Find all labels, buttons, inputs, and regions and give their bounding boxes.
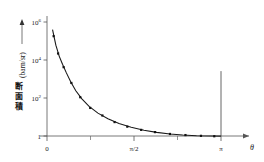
data-point-marker <box>53 35 55 37</box>
cross-section-chart: 1061041021 0π/2π θ (barn/sr) 断 面 積 <box>0 0 264 162</box>
data-point-marker <box>140 129 142 131</box>
data-point-marker <box>113 121 115 123</box>
y-tick-label: 1 <box>38 133 42 141</box>
data-point-marker <box>70 82 72 84</box>
y-axis-cjk-char-1: 断 <box>15 81 23 91</box>
x-tick-label: π/2 <box>130 145 139 153</box>
data-point-marker <box>101 114 103 116</box>
y-axis-cjk-char-2: 面 <box>15 92 23 101</box>
data-point-marker <box>200 135 202 137</box>
data-point-marker <box>79 96 81 98</box>
data-point-marker <box>213 135 215 137</box>
x-axis-label: θ <box>250 143 254 152</box>
y-axis-unit-label: (barn/sr) <box>18 52 27 78</box>
x-tick-label: π <box>219 145 223 153</box>
data-point-marker <box>63 66 65 68</box>
data-point-marker <box>184 134 186 136</box>
data-point-marker <box>89 107 91 109</box>
data-point-marker <box>57 52 59 54</box>
x-tick-label: 0 <box>45 145 49 153</box>
y-axis-cjk-char-3: 積 <box>14 101 24 111</box>
data-point-marker <box>126 126 128 128</box>
data-point-marker <box>169 133 171 135</box>
data-point-marker <box>154 131 156 133</box>
